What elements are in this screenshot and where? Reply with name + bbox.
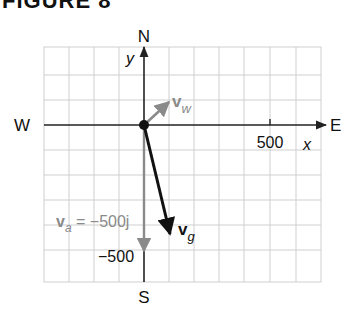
compass-west: W [14, 116, 30, 135]
x-tick-label: 500 [257, 134, 284, 151]
x-axis-label: x [302, 136, 312, 153]
compass-south: S [138, 288, 149, 307]
y-axis-label: y [125, 50, 135, 67]
compass-north: N [138, 27, 150, 46]
vector-figure: FIGURE 8 [0, 0, 360, 320]
label-v-a: va = −500j [56, 213, 129, 235]
vector-v-w [144, 102, 169, 125]
grid [44, 47, 321, 282]
vector-v-g [144, 125, 170, 234]
label-v-w: vw [172, 92, 192, 116]
label-v-g: vg [178, 220, 195, 244]
origin-dot [139, 120, 149, 130]
compass-east: E [330, 116, 341, 135]
y-tick-label: −500 [98, 248, 134, 265]
vector-diagram: N S E W y x 500 −500 vw vg va = −500j [0, 0, 360, 320]
